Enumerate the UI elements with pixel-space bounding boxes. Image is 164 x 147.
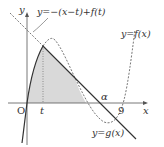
y-axis-label: y — [19, 5, 25, 15]
tangent-line — [10, 13, 43, 46]
label-pointer — [33, 18, 48, 32]
tangent-line-label: y=−(x−t)+f(t) — [37, 7, 106, 17]
t-label: t — [40, 106, 44, 116]
x-axis-label: x — [143, 106, 149, 116]
graph — [0, 0, 164, 147]
alpha-label: α — [101, 92, 108, 102]
g-curve-label: y=g(x) — [92, 128, 124, 138]
f-curve-label: y=f(x) — [121, 29, 151, 39]
nine-label: 9 — [118, 106, 124, 116]
y-axis-arrow — [25, 12, 29, 17]
shaded-area — [27, 46, 86, 103]
origin-label: O — [17, 106, 25, 116]
